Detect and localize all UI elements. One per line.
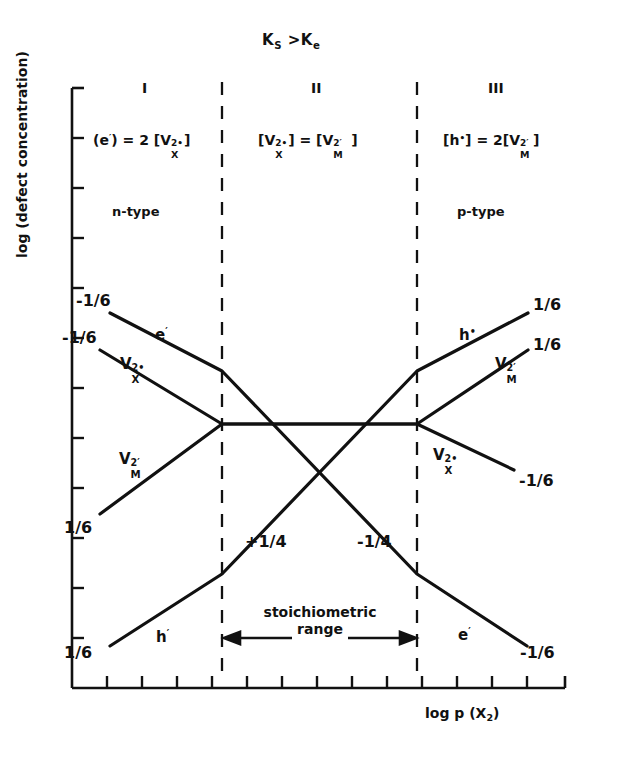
slope-label-vm-left: 1/6 — [64, 520, 92, 536]
curve-label-vm-left: V2′M — [119, 452, 131, 467]
curve-label-vm-right: V2′M — [495, 357, 507, 372]
stoichiometric-range-label: stoichiometric range — [259, 605, 381, 636]
curve-label-h-left: h′ — [156, 629, 169, 645]
curve-label-e-prime-right: e′ — [458, 627, 471, 643]
x-axis-label: log p (X2) — [425, 706, 499, 723]
curve-label-vx-left: V2•X — [120, 357, 132, 372]
chart-title: KS >Ke — [262, 33, 320, 51]
slope-label-e-middle: -1/4 — [357, 534, 392, 550]
x-axis-ticks — [107, 676, 527, 688]
curve-label-vx-right: V2•X — [433, 448, 445, 463]
conduction-type-n: n-type — [112, 205, 159, 218]
annotation-line-1: stoichiometric — [259, 605, 381, 619]
region-label-I: I — [142, 81, 147, 95]
defect-curves — [100, 313, 528, 646]
title-ke: Ke — [301, 31, 321, 49]
plot-frame — [72, 88, 565, 688]
curve-h-hole — [110, 313, 528, 646]
curve-e-prime — [110, 313, 527, 646]
slope-label-vx-left: -1/6 — [62, 330, 97, 346]
title-ks: KS — [262, 31, 282, 49]
curve-vm-cation-vacancy — [100, 350, 528, 514]
title-relation: > — [288, 31, 301, 49]
region-equation-II: [V2•X] = [V2′M ] — [258, 133, 358, 147]
region-label-III: III — [488, 81, 504, 95]
slope-label-e-right: -1/6 — [520, 645, 555, 661]
annotation-line-2: range — [259, 622, 381, 636]
region-dividers — [222, 82, 417, 682]
curve-vx-anion-vacancy — [100, 350, 514, 470]
y-axis-ticks — [72, 138, 84, 638]
region-equation-I: (e′) = 2 [V2•X] — [93, 133, 190, 147]
slope-label-vm-right: 1/6 — [533, 337, 561, 353]
y-axis-label: log (defect concentration) — [14, 8, 30, 258]
conduction-type-p: p-type — [457, 205, 505, 218]
slope-label-vx-right: -1/6 — [519, 473, 554, 489]
slope-label-h-left: 1/6 — [64, 645, 92, 661]
slope-label-e-prime-left: -1/6 — [76, 293, 111, 309]
slope-label-h-middle: +1/4 — [245, 534, 287, 550]
slope-label-h-right: 1/6 — [533, 297, 561, 313]
region-equation-III: [h•] = 2[V2′M] — [443, 133, 539, 147]
curve-label-h-right: h• — [459, 327, 476, 343]
region-label-II: II — [311, 81, 321, 95]
curve-label-e-prime-left: e′ — [155, 327, 168, 343]
